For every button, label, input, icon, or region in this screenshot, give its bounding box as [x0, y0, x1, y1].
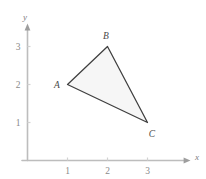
x-tick-label-1: 1 [65, 166, 70, 176]
coordinate-plane-plot: y x 1 2 3 3 2 1 A B C [0, 0, 206, 179]
y-tick-label-1: 1 [16, 118, 21, 128]
vertex-label-c: C [149, 129, 156, 139]
vertex-label-b: B [103, 31, 109, 41]
x-axis-label: x [194, 152, 199, 162]
geometry-figure: y x 1 2 3 3 2 1 A B C [0, 0, 206, 179]
vertex-label-a: A [53, 80, 60, 90]
y-tick-label-3: 3 [16, 42, 21, 52]
y-axis-label: y [22, 12, 27, 22]
y-tick-label-2: 2 [16, 80, 21, 90]
x-tick-label-3: 3 [145, 166, 150, 176]
x-tick-label-2: 2 [105, 166, 110, 176]
